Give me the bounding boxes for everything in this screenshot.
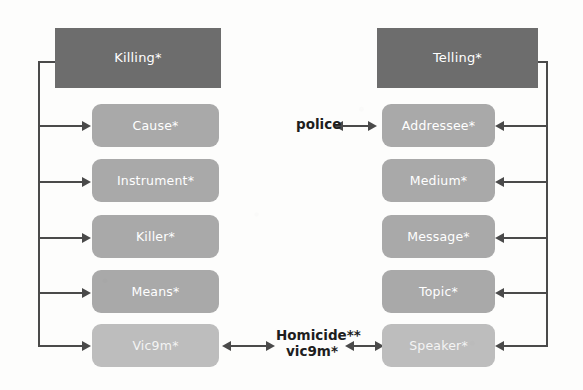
frame-node-telling[interactable]: Telling* [377, 28, 538, 88]
left-branch-cause [38, 125, 84, 127]
arrow-left-icon [495, 177, 504, 187]
role-node-medium[interactable]: Medium* [382, 159, 495, 202]
annotation-homicide: Homicide** [276, 328, 348, 343]
annotation-police: police [296, 117, 341, 132]
role-node-speaker-label: Speaker* [409, 339, 468, 353]
arrow-left-icon [495, 121, 504, 131]
arrow-left-icon [222, 341, 231, 351]
arrow-right-icon [82, 288, 91, 298]
right-bus-vertical [546, 61, 548, 346]
arrow-right-icon [266, 341, 275, 351]
arrow-left-icon [495, 233, 504, 243]
left-branch-victim [38, 345, 84, 347]
arrow-right-icon [82, 341, 91, 351]
left-branch-instrument [38, 181, 84, 183]
left-bus-vertical [38, 61, 40, 346]
role-node-instrument-label: Instrument* [117, 174, 194, 188]
left-branch-means [38, 292, 84, 294]
role-node-message[interactable]: Message* [382, 215, 495, 258]
role-node-medium-label: Medium* [410, 174, 468, 188]
left-branch-killer [38, 237, 84, 239]
role-node-cause-label: Cause* [133, 119, 179, 133]
role-node-killer[interactable]: Killer* [92, 215, 219, 258]
role-node-victim[interactable]: Vic9m* [92, 324, 219, 367]
right-branch-message [502, 237, 548, 239]
frame-node-killing[interactable]: Killing* [55, 28, 221, 88]
arrow-right-icon [368, 121, 377, 131]
arrow-right-icon [82, 233, 91, 243]
role-node-addressee[interactable]: Addressee* [382, 104, 495, 147]
role-node-speaker[interactable]: Speaker* [382, 324, 495, 367]
diagram-canvas: Killing* Cause* Instrument* Killer* Mean… [0, 0, 583, 390]
right-branch-addressee [502, 125, 548, 127]
role-node-message-label: Message* [407, 230, 470, 244]
right-branch-speaker [502, 345, 548, 347]
role-node-topic-label: Topic* [419, 285, 458, 299]
role-node-victim-label: Vic9m* [132, 339, 178, 353]
frame-node-killing-label: Killing* [114, 51, 162, 65]
frame-node-telling-label: Telling* [433, 51, 482, 65]
annotation-victim-filler: vic9m* [276, 344, 348, 359]
role-node-addressee-label: Addressee* [402, 119, 475, 133]
role-node-means[interactable]: Means* [92, 270, 219, 313]
arrow-right-icon [82, 121, 91, 131]
arrow-left-icon [495, 288, 504, 298]
role-node-cause[interactable]: Cause* [92, 104, 219, 147]
role-node-instrument[interactable]: Instrument* [92, 159, 219, 202]
role-node-topic[interactable]: Topic* [382, 270, 495, 313]
arrow-right-icon [82, 177, 91, 187]
right-branch-topic [502, 292, 548, 294]
arrow-left-icon [495, 341, 504, 351]
right-branch-medium [502, 181, 548, 183]
role-node-killer-label: Killer* [136, 230, 175, 244]
role-node-means-label: Means* [131, 285, 179, 299]
